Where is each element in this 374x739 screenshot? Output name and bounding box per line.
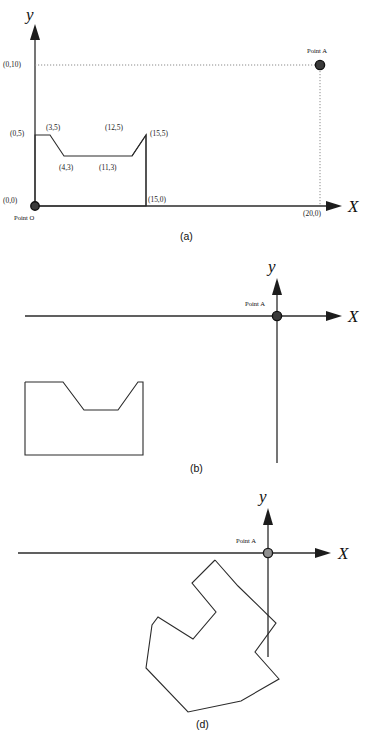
point-a-dot-d [263,548,272,557]
point-a-label-a: Point A [307,47,327,54]
figure-container: y X (0,10) (0,5) (3,5) (12,5) (1 [0,0,374,739]
panel-a-caption: (a) [180,230,193,242]
x-axis-label-b: X [347,307,359,326]
x-axis-d [18,548,331,558]
panel-b-svg: y X Point A (b) [0,250,374,480]
panel-b-caption: (b) [190,462,203,474]
y-axis-arrow-a [30,24,40,40]
y-axis-arrow-b [272,278,282,295]
x-axis-arrow-a [326,201,342,211]
x-axis-arrow-d [315,548,331,558]
guide-lines-a [35,65,320,206]
y-axis-label-a: y [24,5,34,24]
x-axis-label-d: X [337,544,349,563]
shape-profile-a-top [132,135,146,206]
panel-d-caption: (d) [196,718,209,730]
point-o-dot-a [31,202,39,210]
point-a-label-d: Point A [236,537,256,544]
coord-label-0-5: (0,5) [10,129,25,138]
panel-b: y X Point A (b) [0,250,374,480]
x-axis-label-a: X [347,197,359,216]
shape-profile-a [35,135,146,206]
shape-profile-b [25,382,143,455]
panel-d-svg: y X Point A (d) [0,480,374,739]
coord-label-11-3: (11,3) [99,163,117,172]
coord-label-0-10: (0,10) [3,60,21,69]
x-axis-arrow-b [326,311,342,321]
y-axis-label-d: y [257,487,267,506]
coord-label-12-5: (12,5) [105,123,123,132]
y-axis-arrow-d [263,508,273,525]
coord-label-15-0: (15,0) [148,195,166,204]
y-axis-label-b: y [266,257,276,276]
shape-profile-d [146,560,279,712]
point-o-label-a: Point O [14,214,35,221]
y-axis-b [272,278,282,463]
panel-d: y X Point A (d) [0,480,374,739]
point-a-label-b: Point A [245,300,265,307]
point-a-dot-a [315,60,324,69]
coord-label-3-5: (3,5) [46,123,61,132]
panel-a: y X (0,10) (0,5) (3,5) (12,5) (1 [0,0,374,250]
coord-label-15-5: (15,5) [150,129,168,138]
panel-a-svg: y X (0,10) (0,5) (3,5) (12,5) (1 [0,0,374,250]
point-a-dot-b [272,311,281,320]
coord-label-0-0: (0,0) [3,196,18,205]
coord-label-4-3: (4,3) [59,163,74,172]
coord-label-20-0: (20,0) [303,209,321,218]
x-axis-b [25,311,342,321]
